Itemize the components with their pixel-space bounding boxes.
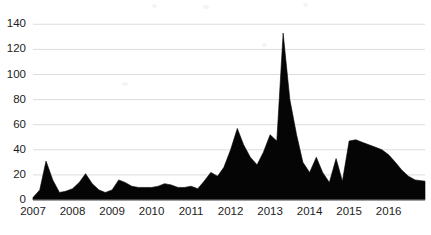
y-axis-tick-labels: 020406080100120140 [7,17,26,205]
x-axis-tick-label: 2010 [139,205,165,217]
x-axis-tick-label: 2011 [179,205,204,217]
y-axis-tick-label: 120 [7,42,26,54]
x-axis-tick-label: 2015 [336,205,362,217]
x-axis-tick-label: 2013 [257,205,283,217]
x-axis-tick-labels: 2007200820092010201120122013201420152016 [20,205,401,217]
y-axis-tick-label: 40 [13,143,26,155]
y-axis-tick-label: 140 [7,17,26,29]
y-axis-tick-label: 80 [13,93,26,105]
x-axis-tick-label: 2016 [376,205,402,217]
y-axis-tick-label: 100 [7,68,26,80]
chart-container: 020406080100120140 200720082009201020112… [0,0,431,235]
x-axis-tick-label: 2008 [60,205,86,217]
y-axis-tick-label: 60 [13,118,26,130]
x-axis-tick-label: 2007 [20,205,46,217]
y-axis-tick-label: 20 [13,168,26,180]
y-axis-tick-label: 0 [20,193,26,205]
x-axis-tick-label: 2012 [218,205,244,217]
area-chart: 020406080100120140 200720082009201020112… [0,0,431,235]
x-axis-tick-label: 2009 [99,205,125,217]
x-axis-tick-label: 2014 [297,205,323,217]
